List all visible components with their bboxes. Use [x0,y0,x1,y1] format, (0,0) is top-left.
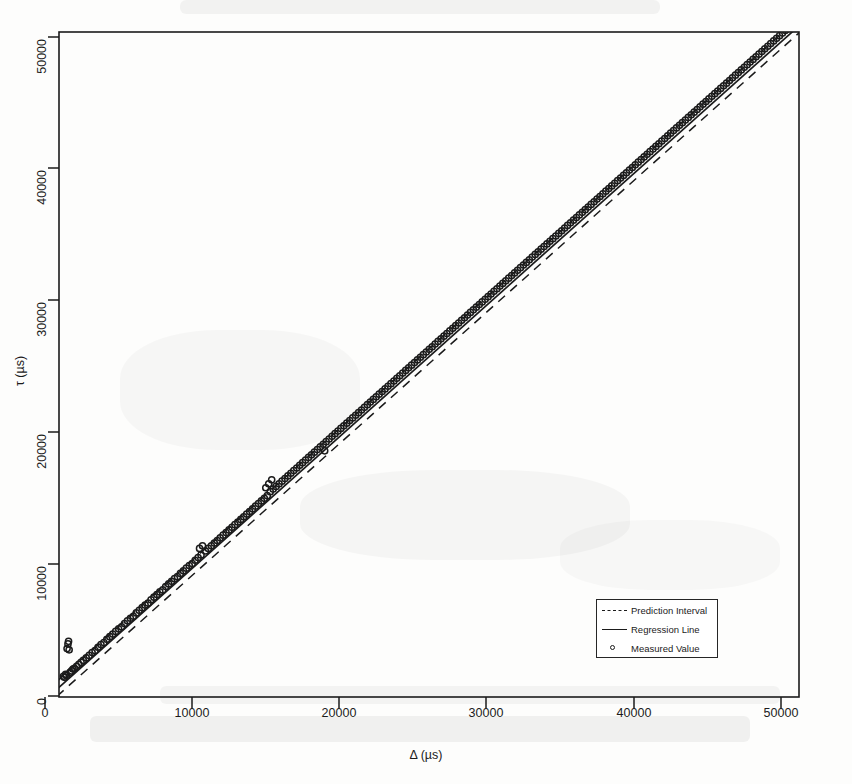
y-tick-label-30000: 30000 [35,302,49,362]
y-tick-label-40000: 40000 [35,170,49,230]
legend-row-regression-line: Regression Line [597,620,719,639]
legend-label-measured-value: Measured Value [631,644,699,654]
solid-line-icon [597,620,631,639]
y-axis-title: τ (µs) [13,331,27,411]
regression-scatter-figure: 0 10000 20000 30000 40000 50000 0 10000 … [0,0,852,784]
y-axis-ticks [48,37,59,696]
x-axis-title: Δ (µs) [0,748,852,762]
x-tick-label-10000: 10000 [175,706,210,720]
data-point [785,25,791,31]
legend-row-prediction-interval: Prediction Interval [597,601,719,620]
y-tick-label-10000: 10000 [35,566,49,626]
y-tick-label-50000: 50000 [35,39,49,99]
legend-row-measured-value: Measured Value [597,639,719,658]
chart-legend: Prediction Interval Regression Line Meas… [596,599,718,658]
dashed-line-icon [597,601,631,620]
plot-canvas [0,0,852,784]
legend-label-prediction-interval: Prediction Interval [631,606,707,616]
x-tick-label-50000: 50000 [764,706,799,720]
open-circle-marker-icon [597,639,631,658]
legend-label-regression-line: Regression Line [631,625,700,635]
x-tick-label-40000: 40000 [617,706,652,720]
x-axis-ticks [45,697,781,708]
x-tick-label-30000: 30000 [469,706,504,720]
measured-value-markers [60,25,791,681]
y-tick-label-20000: 20000 [35,434,49,494]
x-tick-label-20000: 20000 [322,706,357,720]
